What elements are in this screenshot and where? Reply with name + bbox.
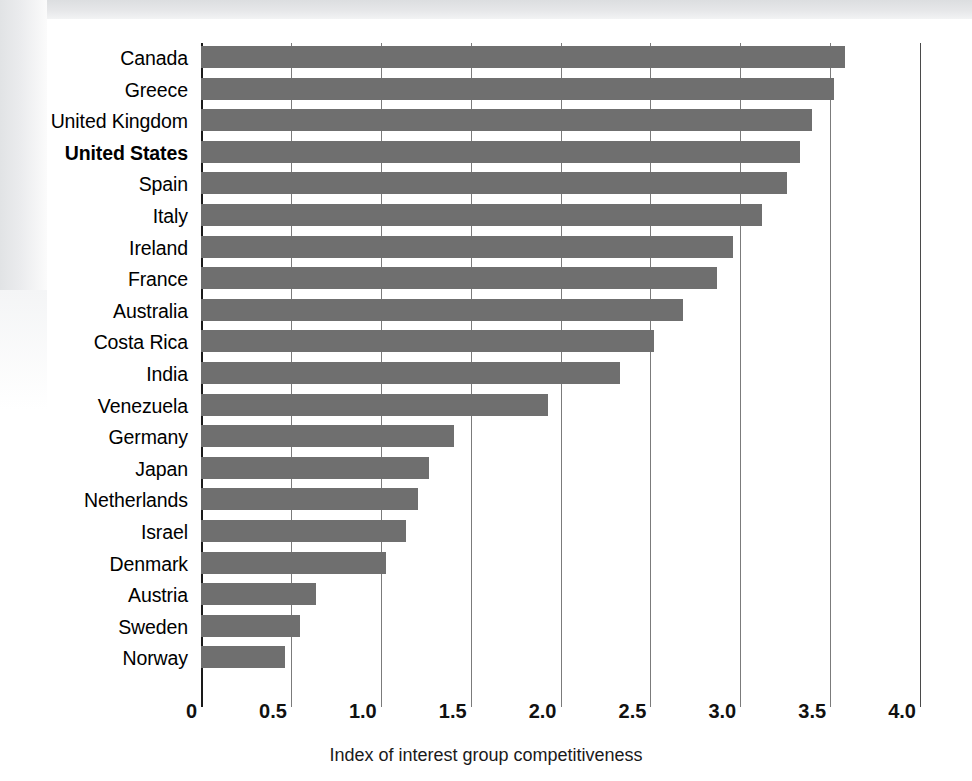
x-tick-label-2.0: 2.0 xyxy=(491,700,557,723)
category-label: Denmark xyxy=(110,553,188,576)
bar xyxy=(201,583,316,605)
category-label: Venezuela xyxy=(98,395,188,418)
category-label: Italy xyxy=(153,205,188,228)
x-tick-label-3.5: 3.5 xyxy=(760,700,826,723)
x-tick-label-3.0: 3.0 xyxy=(670,700,736,723)
x-tick-label-1.0: 1.0 xyxy=(311,700,377,723)
x-tick-label-0: 0 xyxy=(131,700,197,723)
gridline-4 xyxy=(920,43,921,707)
bar xyxy=(201,646,285,668)
category-label: Spain xyxy=(139,173,188,196)
bar xyxy=(201,299,683,321)
bar xyxy=(201,330,654,352)
category-label: United Kingdom xyxy=(51,110,188,133)
category-label: Sweden xyxy=(118,616,188,639)
bar xyxy=(201,488,418,510)
category-label: Norway xyxy=(123,647,189,670)
gridline-3.5 xyxy=(830,43,831,707)
x-tick-label-1.5: 1.5 xyxy=(401,700,467,723)
category-label: India xyxy=(146,363,188,386)
category-label: Germany xyxy=(109,426,189,449)
bar xyxy=(201,425,454,447)
bar xyxy=(201,109,812,131)
category-label: Canada xyxy=(120,47,188,70)
bar-chart: CanadaGreeceUnited KingdomUnited StatesS… xyxy=(0,0,972,781)
category-label: Ireland xyxy=(129,237,188,260)
bar xyxy=(201,520,406,542)
bar xyxy=(201,552,386,574)
bar xyxy=(201,394,548,416)
x-axis-title: Index of interest group competitiveness xyxy=(0,745,972,766)
category-label: Austria xyxy=(128,584,188,607)
category-label: Japan xyxy=(135,458,188,481)
bar xyxy=(201,204,762,226)
category-label: United States xyxy=(65,142,188,165)
category-label: Israel xyxy=(141,521,188,544)
bar xyxy=(201,615,300,637)
bar xyxy=(201,78,834,100)
bar xyxy=(201,141,800,163)
category-label: Australia xyxy=(113,300,188,323)
bar xyxy=(201,457,429,479)
x-tick-label-0.5: 0.5 xyxy=(221,700,287,723)
bar xyxy=(201,236,733,258)
category-label: Costa Rica xyxy=(94,331,188,354)
bar xyxy=(201,267,717,289)
category-label: Netherlands xyxy=(84,489,188,512)
bar xyxy=(201,362,620,384)
bar xyxy=(201,46,845,68)
x-tick-label-4.0: 4.0 xyxy=(850,700,916,723)
category-label: Greece xyxy=(125,79,188,102)
category-label: France xyxy=(128,268,188,291)
bar xyxy=(201,172,787,194)
x-tick-label-2.5: 2.5 xyxy=(580,700,646,723)
